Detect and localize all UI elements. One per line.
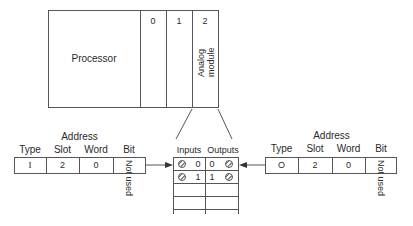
output-address-type: O bbox=[265, 159, 298, 171]
screw-terminal-icon bbox=[178, 160, 186, 168]
input-address-word: 0 bbox=[79, 159, 113, 171]
outputs-label: Outputs bbox=[204, 144, 242, 156]
terminal-block-left-edge bbox=[173, 157, 174, 214]
output-address-slot: 2 bbox=[298, 159, 332, 171]
inputs-label: Inputs bbox=[172, 144, 206, 156]
input-terminal-number: 0 bbox=[193, 158, 203, 170]
output-terminal-number: 1 bbox=[207, 171, 217, 183]
input-address-header-slot: Slot bbox=[46, 144, 79, 156]
output-address-word: 0 bbox=[332, 159, 365, 171]
input-address-header-type: Type bbox=[14, 144, 46, 156]
terminal-block-right-edge bbox=[238, 157, 239, 214]
output-terminal-number: 0 bbox=[207, 158, 217, 170]
address-divider bbox=[365, 157, 366, 174]
screw-terminal-icon bbox=[178, 173, 186, 181]
input-address-type: I bbox=[14, 159, 46, 171]
input-bit-not-used: Not used bbox=[124, 160, 134, 196]
input-address-title: Address bbox=[46, 131, 113, 143]
screw-terminal-icon bbox=[225, 173, 233, 181]
address-divider bbox=[113, 157, 114, 174]
output-address-title: Address bbox=[298, 130, 365, 142]
input-address-header-word: Word bbox=[79, 144, 113, 156]
output-address-header-word: Word bbox=[332, 143, 365, 155]
output-address-header-type: Type bbox=[265, 143, 298, 155]
terminal-row-line bbox=[173, 209, 239, 210]
screw-terminal-icon bbox=[225, 160, 233, 168]
terminal-row-line bbox=[173, 183, 239, 184]
terminal-row-line bbox=[173, 196, 239, 197]
output-bit-not-used: Not used bbox=[376, 160, 386, 196]
output-address-header-bit: Bit bbox=[365, 143, 397, 155]
expansion-lines bbox=[0, 0, 413, 226]
output-address-header-slot: Slot bbox=[298, 143, 332, 155]
input-address-slot: 2 bbox=[46, 159, 79, 171]
terminal-row-line bbox=[173, 157, 239, 158]
terminal-row-line bbox=[173, 170, 239, 171]
input-terminal-number: 1 bbox=[193, 171, 203, 183]
terminal-block-divider bbox=[205, 157, 206, 214]
input-address-header-bit: Bit bbox=[113, 144, 145, 156]
